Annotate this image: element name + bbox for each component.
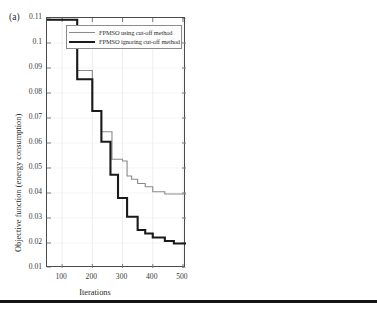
figure-container: (a) 0.010.020.030.040.050.060.070.080.09…: [0, 0, 377, 309]
x-tick-label: 100: [47, 272, 75, 281]
y-tick-label: 0.11: [12, 12, 42, 21]
legend-line-swatch-thin: [69, 32, 95, 33]
x-tick-label: 200: [77, 272, 105, 281]
plot-area-a: [46, 17, 185, 267]
legend-a: FPMSO using cut-off method FPMSO ignorin…: [66, 25, 182, 49]
y-axis-title-a: Objective function (energy consumption): [14, 114, 23, 252]
y-tick-label: 0.1: [12, 37, 42, 46]
footer-rule: [0, 300, 377, 303]
plot-a-canvas: [47, 18, 186, 268]
chart-panel-b: 05101520253035404550 0200400600 Fitness …: [190, 0, 377, 300]
y-tick-label: 0.09: [12, 62, 42, 71]
y-tick-label: 0.08: [12, 87, 42, 96]
x-axis-title-a: Iterations: [79, 288, 111, 297]
chart-panel-a: (a) 0.010.020.030.040.050.060.070.080.09…: [0, 0, 190, 300]
legend-entry: FPMSO ignoring cut-off method: [69, 37, 178, 46]
series-line: [47, 20, 186, 245]
legend-entry-label: FPMSO ignoring cut-off method: [99, 38, 180, 45]
legend-entry-label: FPMSO using cut-off method: [99, 29, 172, 36]
legend-line-swatch-thick: [69, 41, 95, 43]
x-tick-label: 300: [108, 272, 136, 281]
x-tick-label: 400: [138, 272, 166, 281]
legend-entry: FPMSO using cut-off method: [69, 28, 178, 37]
y-tick-label: 0.01: [12, 262, 42, 271]
